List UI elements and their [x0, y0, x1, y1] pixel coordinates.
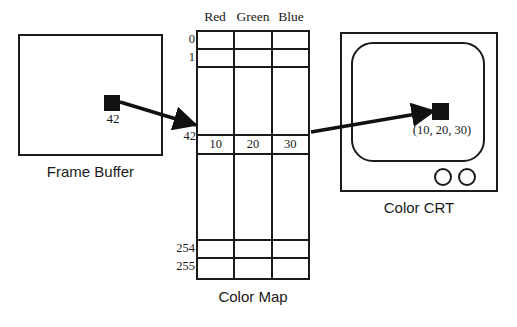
cell-blue [273, 259, 308, 278]
cell-red [198, 50, 235, 66]
cell-green [235, 68, 272, 134]
crt-pixel-rgb-label: (10, 20, 30) [403, 123, 481, 138]
table-row-selected: 42 10 20 30 [198, 136, 308, 155]
cell-green [235, 32, 272, 48]
frame-buffer-caption: Frame Buffer [18, 163, 163, 180]
cell-red [198, 259, 235, 278]
table-row-gap-upper [198, 68, 308, 136]
color-map-caption: Color Map [196, 288, 310, 305]
row-index-label: 255 [165, 259, 195, 274]
color-map-diagram: 42 Frame Buffer Red Green Blue 0 1 42 1 [0, 0, 517, 327]
color-map-column-headers: Red Green Blue [196, 8, 310, 26]
frame-buffer-pixel [104, 95, 120, 111]
crt-screen [351, 42, 485, 162]
crt-caption: Color CRT [340, 199, 498, 216]
cell-green [235, 50, 272, 66]
cell-blue [273, 50, 308, 66]
column-header-green: Green [234, 8, 272, 26]
cell-blue [273, 68, 308, 134]
cell-blue: 30 [273, 136, 308, 153]
cell-red [198, 241, 235, 257]
cell-green [235, 155, 272, 239]
table-row-gap-lower [198, 155, 308, 241]
cell-green [235, 241, 272, 257]
crt-knob-left-icon [434, 168, 452, 186]
table-row: 1 [198, 50, 308, 68]
cell-blue [273, 155, 308, 239]
table-row: 0 [198, 32, 308, 50]
color-map-selected-index-label: 42 [170, 129, 196, 144]
table-row: 254 [198, 241, 308, 259]
column-header-red: Red [196, 8, 234, 26]
row-index-label: 0 [165, 32, 195, 47]
crt-knob-right-icon [458, 168, 476, 186]
cell-red: 10 [198, 136, 235, 153]
cell-blue [273, 241, 308, 257]
row-index-label: 254 [165, 241, 195, 256]
cell-green [235, 259, 272, 278]
cell-blue [273, 32, 308, 48]
cell-green: 20 [235, 136, 272, 153]
column-header-blue: Blue [272, 8, 310, 26]
cell-red [198, 155, 235, 239]
frame-buffer-box [18, 34, 163, 156]
crt-pixel [432, 103, 449, 120]
cell-red [198, 32, 235, 48]
row-index-label: 1 [165, 50, 195, 65]
color-map-table: 0 1 42 10 20 30 [196, 30, 310, 280]
frame-buffer-pixel-value: 42 [100, 112, 126, 126]
table-row: 255 [198, 259, 308, 278]
cell-red [198, 68, 235, 134]
